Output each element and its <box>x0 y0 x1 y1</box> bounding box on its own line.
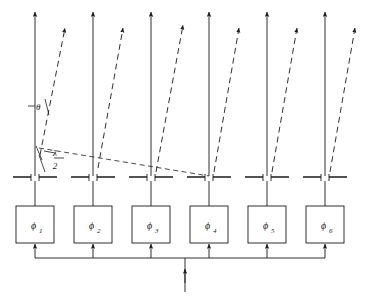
theta-label: θ <box>36 102 41 112</box>
phase-shifter-symbol-3: ϕ <box>147 220 152 231</box>
phase-shifter-symbol-2: ϕ <box>89 220 94 231</box>
phase-shifter-subscript-2: 2 <box>97 227 101 235</box>
phase-shifter-subscript-6: 6 <box>329 227 333 235</box>
phase-shifter-subscript-4: 4 <box>213 227 217 235</box>
lambda-denominator-label: 2 <box>53 161 58 171</box>
phase-shifter-subscript-1: 1 <box>39 227 43 235</box>
phased-array-diagram: θ λ 2 ϕ 1 ϕ 2 ϕ 3 ϕ 4 ϕ 5 ϕ 6 <box>0 0 371 298</box>
phase-shifter-boxes <box>16 206 344 243</box>
phase-shifter-subscript-5: 5 <box>271 227 275 235</box>
lambda-label: λ <box>52 148 57 158</box>
steered-beam-rays <box>40 25 355 172</box>
phase-shifter-symbol-4: ϕ <box>205 220 210 231</box>
phase-shifter-symbol-1: ϕ <box>31 220 36 231</box>
bus-to-box-arrows <box>35 244 325 258</box>
phase-shifter-symbol-5: ϕ <box>263 220 268 231</box>
phase-shifter-symbol-6: ϕ <box>321 220 326 231</box>
element-feed-lines <box>35 181 325 206</box>
boresight-rays <box>35 12 325 176</box>
wavefront-line <box>39 148 209 176</box>
phase-shifter-subscript-3: 3 <box>154 227 159 235</box>
diagram-canvas: θ λ 2 ϕ 1 ϕ 2 ϕ 3 ϕ 4 ϕ 5 ϕ 6 <box>0 0 371 298</box>
